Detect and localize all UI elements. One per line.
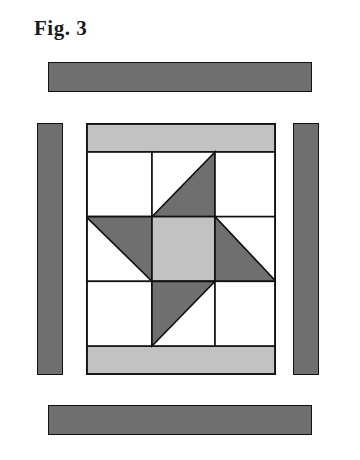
pinwheel-star-block: [86, 123, 276, 375]
figure-canvas: Fig. 3: [0, 0, 360, 460]
block-cell-r2-c0: [86, 281, 152, 346]
left-border-strip: [37, 123, 63, 375]
figure-label: Fig. 3: [34, 18, 87, 39]
block-cell-r0-c2: [215, 152, 276, 217]
block-cell-r1-c1: [152, 217, 215, 282]
block-top-sashing: [86, 123, 276, 152]
block-cell-r2-c2: [215, 281, 276, 346]
bottom-border-strip: [48, 405, 312, 435]
right-border-strip: [293, 123, 319, 375]
block-bottom-sashing: [86, 346, 276, 375]
block-cell-r0-c0: [86, 152, 152, 217]
quilt-block-svg: [86, 123, 276, 375]
top-border-strip: [48, 62, 312, 92]
